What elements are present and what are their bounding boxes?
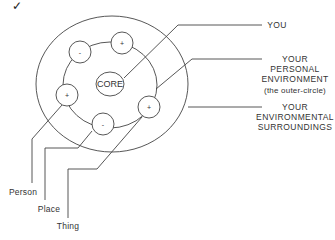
surroundings-line-2: ENVIRONMENTAL bbox=[255, 112, 335, 122]
personal-leader bbox=[156, 59, 262, 89]
surroundings-line-3: SURROUNDINGS bbox=[255, 122, 335, 132]
personal-line-2: PERSONAL bbox=[255, 64, 335, 74]
label-thing: Thing bbox=[54, 221, 82, 231]
charge-2: + bbox=[120, 40, 124, 47]
surroundings-line-1: YOUR bbox=[255, 102, 335, 112]
place-leader bbox=[45, 131, 92, 200]
label-personal-environment: YOUR PERSONAL ENVIRONMENT (the outer-cir… bbox=[255, 54, 335, 96]
label-person: Person bbox=[6, 187, 40, 197]
label-environmental-surroundings: YOUR ENVIRONMENTAL SURROUNDINGS bbox=[255, 102, 335, 132]
label-you: YOU bbox=[266, 20, 288, 30]
personal-line-3: ENVIRONMENT bbox=[255, 74, 335, 84]
personal-line-1: YOUR bbox=[255, 54, 335, 64]
charge-5: + bbox=[147, 104, 151, 111]
personal-note: (the outer-circle) bbox=[255, 86, 335, 96]
core-label: CORE bbox=[94, 79, 126, 89]
you-leader bbox=[124, 25, 262, 78]
label-place: Place bbox=[35, 204, 63, 214]
person-leader bbox=[32, 105, 62, 183]
charge-3: + bbox=[65, 92, 69, 99]
